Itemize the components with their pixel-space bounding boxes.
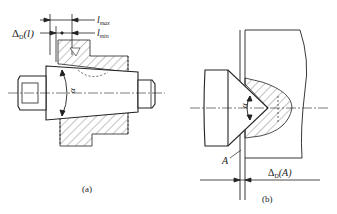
delta-label-a: ΔD(l) xyxy=(12,27,34,40)
figure-b: A ΔD(A) α (b) xyxy=(190,30,330,204)
leader-A xyxy=(230,150,241,158)
alpha-label-a: α xyxy=(67,88,77,93)
figure-a: ΔD(l) lmax lmin α (a) xyxy=(8,14,165,194)
alpha-label-b: α xyxy=(239,103,249,108)
tapered-shaft xyxy=(18,66,155,120)
delta-label-b: ΔD(A) xyxy=(268,167,292,179)
dimension-line-b xyxy=(200,178,320,182)
A-label: A xyxy=(221,155,229,166)
lmin-label: lmin xyxy=(97,27,109,39)
lmax-label: lmax xyxy=(97,14,110,26)
caption-b: (b) xyxy=(262,194,273,204)
technical-diagram: ΔD(l) lmax lmin α (a) xyxy=(0,0,337,214)
caption-a: (a) xyxy=(82,184,92,194)
